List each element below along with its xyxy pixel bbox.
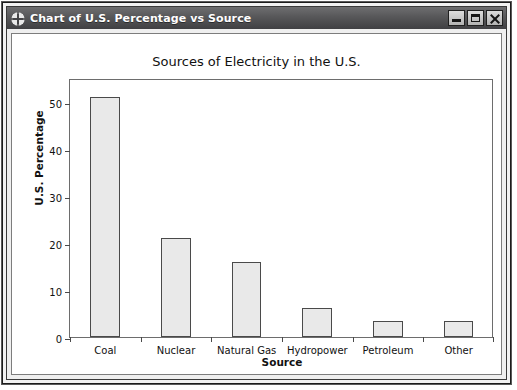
plot-area: 01020304050CoalNuclearNatural GasHydropo…: [69, 79, 493, 338]
maximize-button[interactable]: [467, 10, 484, 26]
chart-app-icon: [11, 11, 25, 25]
x-axis-tick-label: Petroleum: [363, 345, 414, 356]
x-axis-label: Source: [68, 356, 496, 368]
plot-inner: 01020304050CoalNuclearNatural GasHydropo…: [70, 80, 492, 337]
bar[interactable]: [232, 262, 262, 337]
bar[interactable]: [302, 308, 332, 337]
window-controls: [448, 10, 504, 26]
x-axis-tick-label: Hydropower: [287, 345, 348, 356]
y-axis-tick: [65, 292, 70, 293]
x-axis-tick-label: Natural Gas: [217, 345, 276, 356]
y-axis-tick: [65, 245, 70, 246]
close-button[interactable]: [486, 10, 503, 26]
y-axis-tick: [65, 104, 70, 105]
x-axis-tick-label: Nuclear: [157, 345, 196, 356]
y-axis-tick-label: 10: [49, 286, 62, 297]
window-inner-frame: Chart of U.S. Percentage vs Source Sourc…: [6, 6, 507, 380]
bar-chart: Sources of Electricity in the U.S. U.S. …: [12, 34, 501, 374]
x-axis-tick-label: Other: [444, 345, 472, 356]
x-axis-tick: [282, 337, 283, 342]
x-axis-tick: [141, 337, 142, 342]
y-axis-tick-label: 30: [49, 192, 62, 203]
minimize-button[interactable]: [448, 10, 465, 26]
x-axis-tick: [423, 337, 424, 342]
window-title: Chart of U.S. Percentage vs Source: [30, 12, 448, 25]
chart-title: Sources of Electricity in the U.S.: [12, 54, 501, 69]
x-axis-tick: [211, 337, 212, 342]
window-client-area: Sources of Electricity in the U.S. U.S. …: [11, 33, 502, 375]
application-window: Chart of U.S. Percentage vs Source Sourc…: [2, 2, 511, 384]
bar[interactable]: [444, 321, 474, 337]
y-axis-tick-label: 20: [49, 239, 62, 250]
y-axis-tick-label: 50: [49, 98, 62, 109]
y-axis-tick-label: 40: [49, 145, 62, 156]
bar[interactable]: [161, 238, 191, 337]
x-axis-tick: [70, 337, 71, 342]
bar[interactable]: [373, 321, 403, 337]
y-axis-tick: [65, 151, 70, 152]
y-axis-tick: [65, 198, 70, 199]
bar[interactable]: [90, 97, 120, 337]
title-bar[interactable]: Chart of U.S. Percentage vs Source: [7, 7, 506, 29]
x-axis-tick: [353, 337, 354, 342]
y-axis-label: U.S. Percentage: [33, 103, 45, 213]
x-axis-tick: [493, 337, 494, 342]
y-axis-tick-label: 0: [56, 334, 62, 345]
x-axis-tick-label: Coal: [94, 345, 116, 356]
